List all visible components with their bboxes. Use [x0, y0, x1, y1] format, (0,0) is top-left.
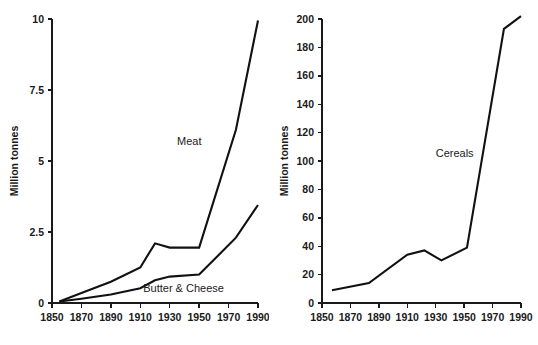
x-tick-label: 1870 — [339, 311, 363, 323]
x-tick-label: 1990 — [246, 311, 269, 323]
x-tick-label: 1990 — [509, 311, 533, 323]
x-tick-label: 1850 — [40, 311, 64, 323]
x-tick-label: 1930 — [158, 311, 182, 323]
y-tick-label: 140 — [296, 98, 314, 110]
y-tick-label: 160 — [296, 69, 314, 81]
y-tick-label: 5 — [38, 155, 44, 167]
y-tick-label: 7.5 — [29, 84, 44, 96]
x-tick-label: 1950 — [452, 311, 476, 323]
x-tick-label: 1950 — [187, 311, 211, 323]
y-tick-label: 120 — [296, 126, 314, 138]
x-tick-label: 1890 — [367, 311, 391, 323]
y-tick-label: 20 — [302, 268, 314, 280]
series-line-meat — [59, 20, 258, 301]
y-tick-label: 100 — [296, 155, 314, 167]
chart-panel-right: 0204060801001201401601802001850187018901… — [269, 0, 538, 345]
y-tick-label: 60 — [302, 211, 314, 223]
right-chart-plot: 0204060801001201401601802001850187018901… — [269, 0, 538, 345]
series-line-cereals — [332, 16, 521, 290]
y-tick-label: 40 — [302, 240, 314, 252]
y-tick-label: 2.5 — [29, 226, 44, 238]
y-tick-label: 10 — [32, 13, 44, 25]
y-tick-label: 200 — [296, 13, 314, 25]
x-tick-label: 1930 — [424, 311, 448, 323]
x-tick-label: 1970 — [217, 311, 241, 323]
x-tick-label: 1850 — [310, 311, 334, 323]
two-panel-line-chart-figure: 02.557.510185018701890191019301950197019… — [0, 0, 538, 345]
chart-panel-left: 02.557.510185018701890191019301950197019… — [0, 0, 269, 345]
series-label-cereals: Cereals — [436, 147, 474, 159]
x-tick-label: 1870 — [70, 311, 94, 323]
left-chart-plot: 02.557.510185018701890191019301950197019… — [0, 0, 269, 345]
series-label-meat: Meat — [177, 135, 201, 147]
y-tick-label: 0 — [308, 297, 314, 309]
series-label-butter-cheese: Butter & Cheese — [143, 282, 224, 294]
x-tick-label: 1910 — [396, 311, 420, 323]
y-tick-label: 180 — [296, 41, 314, 53]
y-axis-title: Million tonnes — [278, 126, 290, 197]
x-tick-label: 1890 — [99, 311, 123, 323]
x-tick-label: 1910 — [129, 311, 153, 323]
x-tick-label: 1970 — [481, 311, 505, 323]
y-axis-title: Million tonnes — [8, 126, 20, 197]
y-tick-label: 80 — [302, 183, 314, 195]
y-tick-label: 0 — [38, 297, 44, 309]
